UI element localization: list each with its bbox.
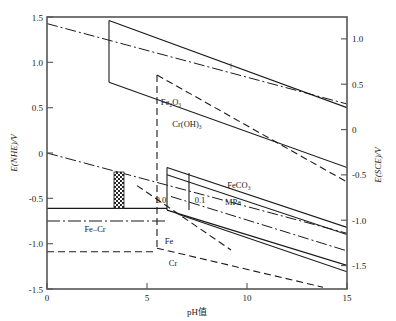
ytick-left-6: -1.5	[29, 285, 44, 295]
label-fe-cr: Fe–Cr	[84, 224, 105, 234]
ytick-right-0: 1.0	[352, 34, 364, 44]
y-axis-left-title: E(NHE)/V	[9, 133, 19, 173]
label-feco3: FeCO₃	[227, 180, 250, 190]
pourbaix-diagram-figure: 1.5 1.0 0.5 0 -0.5 -1.0 -1.5 1.0 0.5 0 -…	[0, 0, 396, 321]
ytick-right-1: 0.5	[352, 80, 364, 90]
ytick-left-2: 0.5	[32, 103, 44, 113]
ytick-left-1: 1.0	[32, 58, 44, 68]
label-cr: Cr	[169, 258, 178, 268]
pourbaix-chart-svg: 1.5 1.0 0.5 0 -0.5 -1.0 -1.5 1.0 0.5 0 -…	[0, 0, 396, 321]
label-pressure-3-0: 3.0	[156, 195, 167, 205]
ytick-left-5: -1.0	[29, 239, 44, 249]
x-axis-title: pH值	[187, 306, 207, 317]
xtick-1: 5	[145, 293, 150, 303]
label-pressure-0-1: 0.1	[195, 195, 206, 205]
y-axis-left-tick-labels: 1.5 1.0 0.5 0 -0.5 -1.0 -1.5	[29, 13, 44, 295]
plot-area-background	[47, 17, 347, 289]
ytick-right-4: -1.0	[352, 216, 367, 226]
y-axis-right-title: E(SCE)/V	[373, 146, 383, 184]
operating-window-hatched-region	[114, 172, 124, 208]
ytick-right-3: -0.5	[352, 170, 367, 180]
x-axis-tick-labels: 0 5 10 15	[45, 293, 352, 303]
y-axis-right-tick-labels: 1.0 0.5 0 -0.5 -1.0 -1.5	[352, 34, 367, 271]
label-mpa: MPa	[225, 197, 241, 207]
label-croh3: Cr(OH)₃	[172, 119, 201, 129]
ytick-left-4: -0.5	[29, 194, 44, 204]
ytick-left-0: 1.5	[32, 13, 44, 23]
label-fe2o3: Fe₂O₃	[161, 97, 182, 107]
xtick-2: 10	[243, 293, 253, 303]
ytick-right-5: -1.5	[352, 261, 367, 271]
label-fe: Fe	[165, 236, 174, 246]
xtick-3: 15	[343, 293, 353, 303]
xtick-0: 0	[45, 293, 50, 303]
ytick-right-2: 0	[352, 125, 357, 135]
ytick-left-3: 0	[39, 149, 44, 159]
